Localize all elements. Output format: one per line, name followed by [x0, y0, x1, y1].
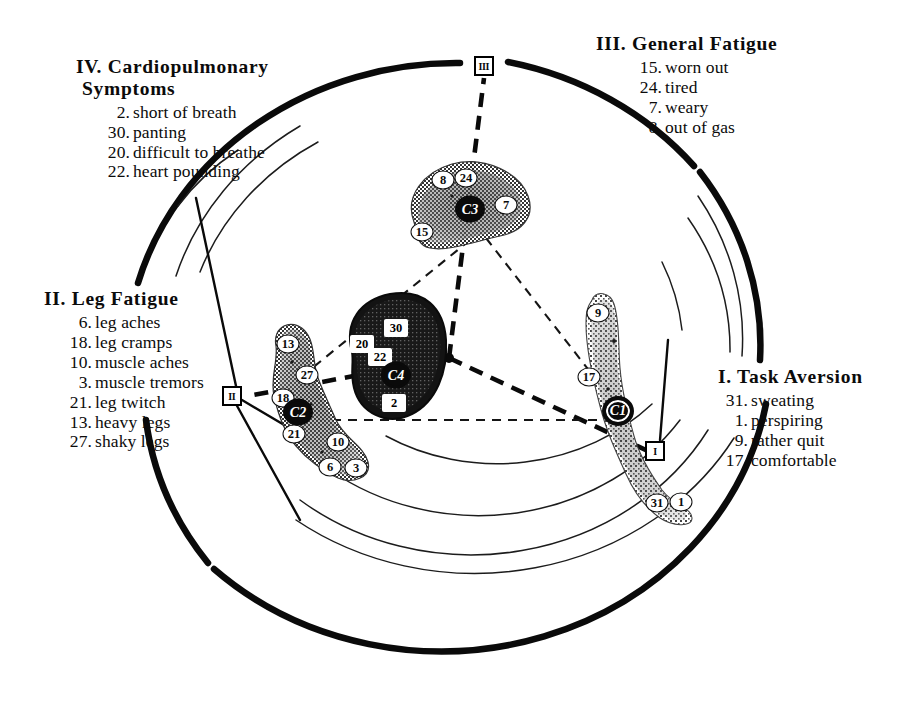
item-label: comfortable	[751, 451, 837, 471]
item-number: 17.	[722, 451, 748, 471]
item-number: 30.	[104, 123, 130, 143]
item-number: 3.	[66, 373, 92, 393]
quadrant-item: 27. shaky legs	[66, 432, 294, 452]
quadrant-item-list-cardiopulmonary: 2. short of breath 30. panting 20. diffi…	[76, 103, 336, 183]
item-label: worn out	[665, 58, 729, 78]
figure-root: IV. Cardiopulmonary Symptoms 2. short of…	[0, 0, 924, 704]
item-number: 6.	[66, 313, 92, 333]
item-label: tired	[665, 78, 698, 98]
quadrant-item: 2. short of breath	[104, 103, 336, 123]
axis-marker-iii: III	[474, 56, 494, 76]
plot-point-C4: C4	[381, 362, 411, 389]
plot-point-27: 27	[296, 366, 319, 385]
item-number: 7.	[636, 98, 662, 118]
item-label: shaky legs	[95, 432, 169, 452]
quadrant-title-cardiopulmonary: IV. Cardiopulmonary Symptoms	[76, 56, 336, 100]
quadrant-block-cardiopulmonary: IV. Cardiopulmonary Symptoms 2. short of…	[76, 56, 336, 182]
item-label: sweating	[751, 391, 814, 411]
quadrant-item: 31. sweating	[722, 391, 920, 411]
quadrant-item: 7. weary	[636, 98, 876, 118]
quadrant-item: 17. comfortable	[722, 451, 920, 471]
plot-point-C1: C1	[602, 396, 634, 426]
item-label: out of gas	[665, 118, 735, 138]
centroid-triangle	[300, 238, 612, 420]
item-label: heart pounding	[133, 162, 240, 182]
axis-marker-label: I	[653, 446, 656, 457]
quadrant-item: 10. muscle aches	[66, 353, 294, 373]
quadrant-block-leg-fatigue: II. Leg Fatigue 6. leg aches 18. leg cra…	[44, 288, 294, 452]
plot-point-15: 15	[411, 223, 434, 242]
plot-point-10: 10	[327, 433, 350, 452]
plot-point-31: 31	[646, 494, 669, 513]
plot-point-3: 3	[345, 459, 368, 478]
item-number: 27.	[66, 432, 92, 452]
item-number: 24.	[636, 78, 662, 98]
item-label: muscle aches	[95, 353, 189, 373]
plot-point-21: 21	[283, 425, 306, 444]
item-label: perspiring	[751, 411, 823, 431]
quadrant-item: 1. perspiring	[722, 411, 920, 431]
quadrant-item-list-task-aversion: 31. sweating 1. perspiring 9. rather qui…	[700, 391, 920, 471]
quadrant-item: 30. panting	[104, 123, 336, 143]
item-label: leg twitch	[95, 393, 166, 413]
quadrant-item-list-leg-fatigue: 6. leg aches 18. leg cramps 10. muscle a…	[44, 313, 294, 453]
plot-point-9: 9	[587, 304, 610, 323]
quadrant-item: 24. tired	[636, 78, 876, 98]
quadrant-title-general-fatigue: III. General Fatigue	[596, 33, 876, 55]
plot-point-8: 8	[432, 171, 455, 190]
item-label: heavy legs	[95, 413, 170, 433]
item-number: 21.	[66, 393, 92, 413]
item-number: 15.	[636, 58, 662, 78]
plot-point-13: 13	[277, 335, 300, 354]
item-number: 31.	[722, 391, 748, 411]
axis-marker-i: I	[645, 441, 665, 461]
quadrant-item: 22. heart pounding	[104, 162, 336, 182]
item-label: weary	[665, 98, 708, 118]
item-number: 18.	[66, 333, 92, 353]
quadrant-item-list-general-fatigue: 15. worn out 24. tired 7. weary 8. out o…	[596, 58, 876, 138]
quadrant-block-task-aversion: I. Task Aversion 31. sweating 1. perspir…	[700, 366, 920, 471]
quadrant-block-general-fatigue: III. General Fatigue 15. worn out 24. ti…	[596, 33, 876, 138]
axis-marker-label: III	[479, 61, 489, 72]
quadrant-item: 6. leg aches	[66, 313, 294, 333]
axis-marker-label: II	[229, 391, 236, 402]
item-label: difficult to breathe	[133, 143, 265, 163]
item-number: 1.	[722, 411, 748, 431]
plot-point-2: 2	[382, 394, 406, 412]
item-number: 10.	[66, 353, 92, 373]
plot-point-7: 7	[495, 196, 518, 215]
item-label: rather quit	[751, 431, 825, 451]
plot-point-17: 17	[578, 368, 601, 387]
quadrant-item: 18. leg cramps	[66, 333, 294, 353]
item-number: 13.	[66, 413, 92, 433]
plot-point-6: 6	[319, 458, 342, 477]
item-label: leg aches	[95, 313, 161, 333]
quadrant-item: 21. leg twitch	[66, 393, 294, 413]
plot-point-1: 1	[670, 493, 693, 512]
item-number: 22.	[104, 162, 130, 182]
quadrant-item: 8. out of gas	[636, 118, 876, 138]
axis-marker-ii: II	[222, 386, 242, 406]
item-label: muscle tremors	[95, 373, 204, 393]
quadrant-item: 3. muscle tremors	[66, 373, 294, 393]
quadrant-title-task-aversion: I. Task Aversion	[700, 366, 920, 388]
item-label: leg cramps	[95, 333, 172, 353]
quadrant-item: 15. worn out	[636, 58, 876, 78]
radius-marker-i-up	[660, 340, 668, 440]
item-number: 2.	[104, 103, 130, 123]
item-number: 8.	[636, 118, 662, 138]
item-label: panting	[133, 123, 186, 143]
plot-point-30: 30	[384, 319, 408, 337]
plot-point-C3: C3	[455, 196, 485, 223]
item-label: short of breath	[133, 103, 237, 123]
plot-point-24: 24	[455, 169, 478, 188]
quadrant-title-leg-fatigue: II. Leg Fatigue	[44, 288, 294, 310]
quadrant-item: 20. difficult to breathe	[104, 143, 336, 163]
quadrant-item: 13. heavy legs	[66, 413, 294, 433]
quadrant-item: 9. rather quit	[722, 431, 920, 451]
item-number: 20.	[104, 143, 130, 163]
item-number: 9.	[722, 431, 748, 451]
plot-point-C2: C2	[283, 399, 313, 426]
